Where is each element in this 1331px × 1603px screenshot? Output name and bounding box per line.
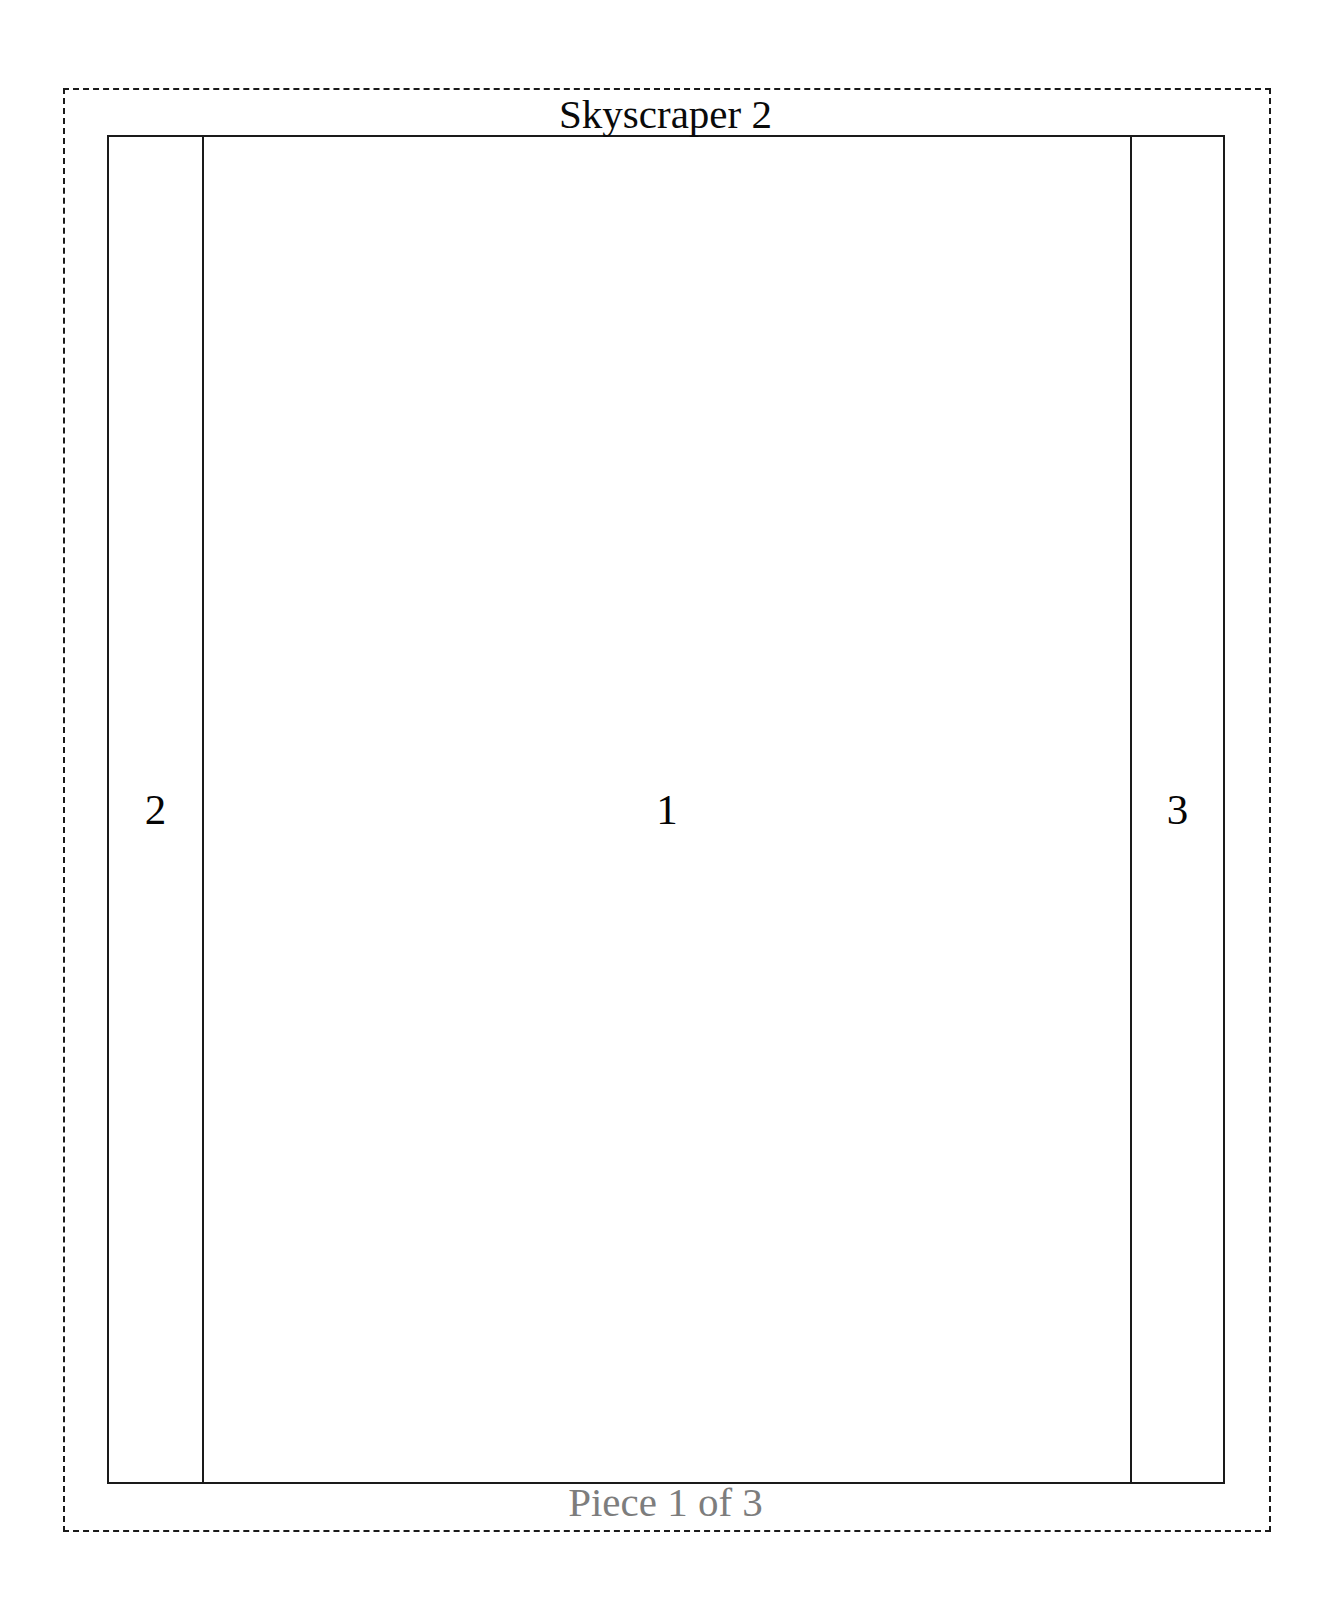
panel-column-left-flap: 2 — [109, 137, 204, 1482]
panel-number-center: 1 — [656, 788, 678, 831]
papercraft-sheet: 2 1 3 Skyscraper 2 Piece 1 of 3 — [0, 0, 1331, 1603]
page-title: Skyscraper 2 — [0, 92, 1331, 136]
panel-number-left: 2 — [145, 788, 167, 831]
panel-column-right-flap: 3 — [1130, 137, 1223, 1482]
panel-outline: 2 1 3 — [107, 135, 1225, 1484]
page-footer-piece-label: Piece 1 of 3 — [0, 1480, 1331, 1524]
panel-column-main-face: 1 — [204, 137, 1130, 1482]
panel-number-right: 3 — [1167, 788, 1189, 831]
